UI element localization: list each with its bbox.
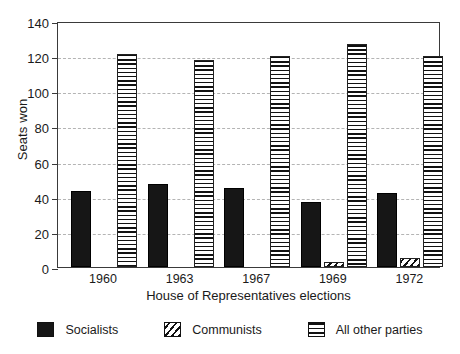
bar-all-other-parties-1960 [117,54,137,267]
y-tick-label: 100 [27,86,49,101]
bar-communists-1972 [400,258,420,267]
y-tick-label: 60 [35,156,49,171]
x-tick-label: 1969 [319,272,347,286]
bar-socialists-1960 [71,191,91,267]
gridline [58,58,439,59]
legend-item-socialists[interactable]: Socialists [37,322,118,337]
y-tick-label: 80 [35,121,49,136]
plot-area: 020406080100120140 [57,22,440,268]
x-axis-title: House of Representatives elections [57,288,440,303]
legend-swatch-icon [37,322,54,337]
y-tick-mark [52,93,58,94]
x-tick-label: 1972 [395,272,423,286]
bar-all-other-parties-1963 [194,60,214,267]
legend-label: Socialists [65,323,118,337]
y-tick-label: 20 [35,226,49,241]
bar-all-other-parties-1972 [423,56,443,267]
chart-legend: SocialistsCommunistsAll other parties [0,322,460,337]
y-tick-mark [52,23,58,24]
y-tick-mark [52,58,58,59]
y-tick-mark [52,128,58,129]
legend-item-all-other-parties[interactable]: All other parties [308,322,423,337]
legend-swatch-icon [164,322,181,337]
legend-swatch-icon [308,322,325,337]
bar-socialists-1967 [224,188,244,267]
bar-chart: Seats won 020406080100120140 19601963196… [0,0,460,354]
legend-label: Communists [192,323,261,337]
gridline [58,164,439,165]
x-tick-label: 1960 [89,272,117,286]
legend-label: All other parties [336,323,423,337]
bar-all-other-parties-1969 [347,44,367,267]
y-tick-label: 0 [42,262,49,277]
bar-socialists-1969 [301,202,321,267]
y-tick-label: 140 [27,16,49,31]
y-tick-mark [52,199,58,200]
bar-communists-1969 [324,262,344,267]
y-tick-mark [52,234,58,235]
y-axis-title: Seats won [15,60,30,200]
y-tick-label: 40 [35,191,49,206]
x-tick-label: 1963 [166,272,194,286]
bar-socialists-1963 [148,184,168,267]
y-tick-mark [52,164,58,165]
legend-item-communists[interactable]: Communists [164,322,261,337]
bar-all-other-parties-1967 [270,56,290,267]
gridline [58,93,439,94]
plot-inner: 020406080100120140 [58,23,439,267]
y-tick-mark [52,269,58,270]
x-tick-label: 1967 [242,272,270,286]
gridline [58,128,439,129]
y-tick-label: 120 [27,51,49,66]
bar-socialists-1972 [377,193,397,267]
